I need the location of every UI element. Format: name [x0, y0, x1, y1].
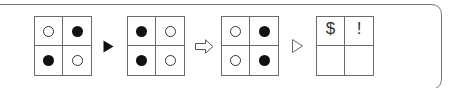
hollow-circle-icon	[72, 55, 83, 66]
grid1-cell-bottom-left	[35, 46, 63, 75]
grid2-cell-top-right	[156, 17, 184, 46]
grid3-cell-bottom-right	[250, 46, 278, 75]
hollow-arrow-right-icon	[195, 39, 214, 54]
dollar-symbol: $	[326, 20, 335, 37]
grid4-cell-top-left: $	[317, 17, 345, 46]
pattern-grid-1	[34, 16, 92, 76]
exclamation-symbol: !	[357, 20, 362, 37]
filled-circle-icon	[72, 26, 83, 37]
hollow-circle-icon	[230, 55, 241, 66]
grid1-cell-bottom-right	[63, 46, 91, 75]
pattern-grid-2	[127, 16, 185, 76]
hollow-circle-icon	[230, 26, 241, 37]
grid4-cell-bottom-left	[317, 46, 345, 75]
grid4-cell-top-right: !	[345, 17, 373, 46]
grid4-cell-bottom-right	[345, 46, 373, 75]
grid3-cell-top-right	[250, 17, 278, 46]
hollow-circle-icon	[165, 55, 176, 66]
grid2-cell-bottom-right	[156, 46, 184, 75]
filled-circle-icon	[136, 55, 147, 66]
grid2-cell-bottom-left	[128, 46, 156, 75]
hollow-circle-icon	[43, 26, 54, 37]
grid1-cell-top-left	[35, 17, 63, 46]
filled-circle-icon	[136, 26, 147, 37]
filled-circle-icon	[259, 55, 270, 66]
hollow-circle-icon	[165, 26, 176, 37]
grid3-cell-bottom-left	[222, 46, 250, 75]
grid3-cell-top-left	[222, 17, 250, 46]
hollow-triangle-right-icon	[292, 39, 304, 53]
pattern-grid-3	[221, 16, 279, 76]
grid2-cell-top-left	[128, 17, 156, 46]
filled-circle-icon	[43, 55, 54, 66]
filled-circle-icon	[259, 26, 270, 37]
filled-triangle-right-icon	[103, 40, 115, 53]
pattern-grid-4: $ !	[316, 16, 374, 76]
grid1-cell-top-right	[63, 17, 91, 46]
